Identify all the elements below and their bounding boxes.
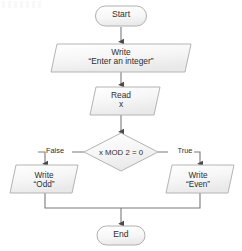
node-start-shape[interactable]	[96, 6, 147, 26]
flowchart-svg	[0, 0, 242, 251]
connector-odd-to-merge	[45, 193, 121, 208]
node-write-prompt-shape[interactable]	[51, 44, 191, 72]
node-write-odd-shape[interactable]	[10, 165, 78, 193]
node-decision-shape[interactable]	[84, 133, 158, 171]
edge-label-false: False	[38, 146, 72, 155]
connector-even-to-merge	[121, 193, 200, 208]
node-end-shape[interactable]	[97, 226, 145, 245]
node-read-shape[interactable]	[90, 87, 160, 115]
node-write-even-shape[interactable]	[166, 165, 234, 193]
flowchart-canvas: Start Write “Enter an integer” Read x x …	[0, 0, 242, 251]
edge-label-true: True	[170, 146, 200, 155]
